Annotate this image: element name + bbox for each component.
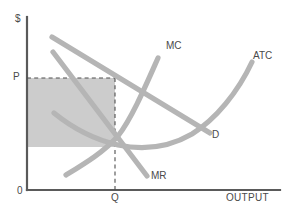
marginal-cost-label: MC bbox=[166, 41, 182, 51]
monopoly-profit-diagram: $ P 0 Q OUTPUT MC ATC D MR bbox=[0, 0, 287, 215]
atc-label: ATC bbox=[253, 51, 272, 61]
y-axis-label: $ bbox=[15, 14, 21, 24]
origin-label: 0 bbox=[17, 186, 23, 196]
demand-label: D bbox=[212, 130, 219, 140]
chart-canvas bbox=[0, 0, 287, 215]
quantity-tick-label: Q bbox=[111, 193, 119, 203]
marginal-revenue-label: MR bbox=[151, 171, 167, 181]
x-axis-label: OUTPUT bbox=[226, 193, 269, 203]
price-tick-label: P bbox=[13, 72, 20, 82]
